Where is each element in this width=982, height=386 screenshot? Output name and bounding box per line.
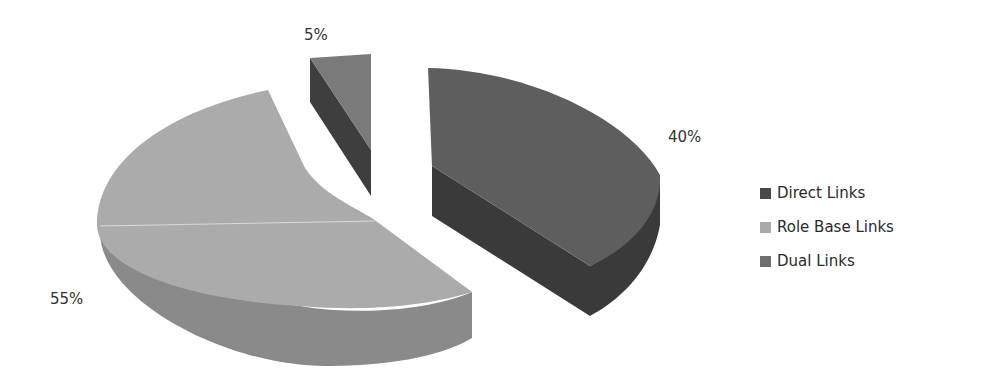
legend-item-role-base-links: Role Base Links xyxy=(760,210,894,244)
label-role-percent: 55% xyxy=(50,290,83,308)
slice-role-base-top xyxy=(97,90,472,308)
legend-swatch-icon xyxy=(760,256,771,267)
legend-swatch-icon xyxy=(760,222,771,233)
legend-label: Role Base Links xyxy=(777,218,894,236)
legend-item-dual-links: Dual Links xyxy=(760,244,894,278)
slice-direct-top xyxy=(428,68,660,266)
label-dual-percent: 5% xyxy=(304,26,328,44)
label-direct-percent: 40% xyxy=(668,128,701,146)
legend-swatch-icon xyxy=(760,188,771,199)
chart-legend: Direct Links Role Base Links Dual Links xyxy=(760,176,894,278)
legend-label: Direct Links xyxy=(777,184,865,202)
legend-label: Dual Links xyxy=(777,252,855,270)
legend-item-direct-links: Direct Links xyxy=(760,176,894,210)
